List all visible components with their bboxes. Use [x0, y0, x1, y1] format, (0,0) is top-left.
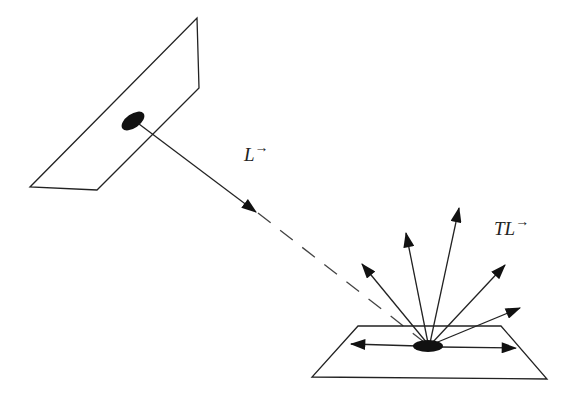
receiving-spot: [413, 340, 443, 352]
incident-label: L→: [244, 142, 269, 166]
source-spot: [118, 108, 147, 134]
vector-arrow-icon: →: [515, 214, 529, 229]
reflection-diagram: [0, 0, 580, 403]
source-plane: [30, 18, 199, 190]
vector-arrow-icon: →: [255, 140, 269, 155]
receiving-plane: [312, 326, 547, 379]
incident-ray-dashed: [258, 213, 424, 342]
incident-label-text: L: [244, 144, 255, 165]
reflected-label-text: TL: [494, 218, 515, 239]
reflected-label: TL→: [494, 216, 529, 240]
incident-ray: [139, 124, 256, 212]
